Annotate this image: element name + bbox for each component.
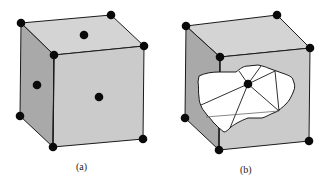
cube-a bbox=[16, 11, 149, 152]
caption-a: (a) bbox=[76, 161, 87, 172]
caption-b: (b) bbox=[240, 164, 252, 175]
atom-corner-icon bbox=[216, 53, 225, 62]
atom-corner-icon bbox=[182, 22, 191, 31]
atom-corner-icon bbox=[16, 112, 25, 121]
atom-face-center-icon bbox=[33, 81, 42, 90]
atom-corner-icon bbox=[140, 42, 149, 51]
atom-corner-icon bbox=[215, 146, 224, 155]
atom-corner-icon bbox=[139, 135, 148, 144]
atom-corner-icon bbox=[50, 51, 59, 60]
cube-b bbox=[181, 11, 315, 155]
atom-corner-icon bbox=[181, 114, 190, 123]
atom-corner-icon bbox=[49, 143, 58, 152]
atom-corner-icon bbox=[305, 137, 314, 146]
atom-corner-icon bbox=[306, 44, 315, 53]
atom-face-center-icon bbox=[80, 31, 89, 40]
atom-face-center-icon bbox=[95, 93, 104, 102]
atom-corner-icon bbox=[273, 11, 282, 20]
crystal-unit-cell-figure bbox=[0, 0, 329, 184]
atom-corner-icon bbox=[107, 11, 116, 20]
atom-corner-icon bbox=[17, 19, 26, 28]
atom-interior-icon bbox=[244, 80, 253, 89]
